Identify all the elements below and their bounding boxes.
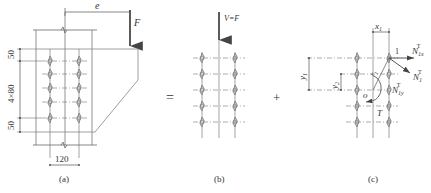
n1-label: N1T [412, 69, 422, 83]
force-f-label: F [133, 17, 141, 28]
plus-operator: + [273, 90, 280, 105]
dim-bottom-label: 50 [6, 121, 16, 131]
n1y-label: N1yT [391, 82, 404, 96]
dim-top-label: 50 [6, 50, 16, 60]
n1-force-arrow [389, 58, 410, 73]
y2-label: y2 [329, 82, 340, 90]
bolt-index-label: 1 [395, 47, 399, 56]
bolt-grid-c [307, 53, 398, 127]
panel-b: V=F (b) [193, 12, 245, 184]
dim-middle-label: 4×80 [6, 84, 16, 103]
caption-b: (b) [214, 174, 225, 184]
n1x-label: N1xT [411, 43, 424, 57]
eccentricity-label: e [95, 0, 100, 11]
equals-operator: = [166, 90, 174, 105]
torque-label: T [377, 108, 383, 118]
dim-width-label: 120 [55, 154, 69, 164]
y1-label: y1 [297, 73, 308, 81]
panel-c: x1 y1 y2 r1 1 [297, 21, 424, 184]
origin-label: o [363, 90, 368, 100]
force-v-label: V=F [224, 14, 239, 23]
x1-label: x1 [374, 21, 382, 32]
caption-a: (a) [59, 174, 69, 184]
bolt-group-diagram: e F [0, 0, 431, 193]
caption-c: (c) [368, 174, 378, 184]
r1-label: r1 [368, 68, 380, 78]
panel-a: e F [6, 0, 141, 184]
